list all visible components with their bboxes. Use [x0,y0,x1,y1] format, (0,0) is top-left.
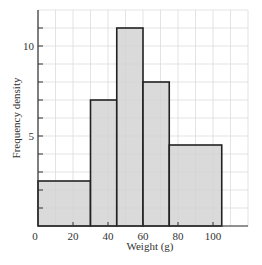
x-tick-label: 40 [103,230,115,242]
y-axis-label: Frequency density [10,77,22,158]
histogram-bar [117,28,143,226]
histogram-bar [169,145,222,226]
x-tick-label: 0 [32,230,38,242]
y-tick-label: 5 [29,130,35,142]
x-tick-label: 80 [173,230,185,242]
histogram-chart: 020406080100510 Weight (g) Frequency den… [0,0,262,265]
x-axis-label: Weight (g) [126,240,173,253]
y-tick-label: 10 [23,40,35,52]
x-tick-label: 100 [205,230,222,242]
x-tick-label: 20 [68,230,80,242]
histogram-bar [38,181,91,226]
histogram-bar [143,82,169,226]
histogram-bar [91,100,117,226]
histogram-bars [38,28,222,226]
